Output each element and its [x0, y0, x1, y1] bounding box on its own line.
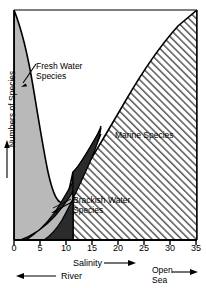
brackish-line1: Brackish Water	[73, 195, 130, 205]
x-tick-label-15: 15	[82, 243, 102, 253]
x-axis-title: Salinity	[73, 258, 102, 268]
salinity-arrow-icon	[104, 260, 136, 266]
y-axis-title: Numbers of Species	[7, 67, 17, 151]
brackish-water-species-label: Brackish WaterSpecies	[73, 196, 130, 215]
fresh-water-species-label: Fresh WaterSpecies	[36, 62, 82, 81]
river-direction-label: River	[61, 271, 82, 281]
salinity-species-figure: Numbers of Species Fresh WaterSpecies Br…	[0, 0, 206, 288]
brackish-line2: Species	[73, 205, 103, 215]
open-sea-line1: Open	[152, 265, 173, 275]
x-tick-label-0: 0	[4, 243, 24, 253]
x-tick-label-20: 20	[108, 243, 128, 253]
river-arrow-icon	[16, 273, 56, 279]
marine-species-label: Marine Species	[115, 131, 174, 141]
x-tick-label-10: 10	[56, 243, 76, 253]
open-sea-line2: Sea	[152, 275, 167, 285]
fresh-water-line1: Fresh Water	[36, 61, 82, 71]
x-tick-label-30: 30	[160, 243, 180, 253]
x-tick-label-35: 35	[186, 243, 206, 253]
open-sea-direction-label: OpenSea	[152, 265, 173, 285]
open-sea-arrow-icon	[172, 269, 198, 275]
x-tick-label-25: 25	[134, 243, 154, 253]
x-tick-label-5: 5	[30, 243, 50, 253]
fresh-water-line2: Species	[36, 71, 66, 81]
